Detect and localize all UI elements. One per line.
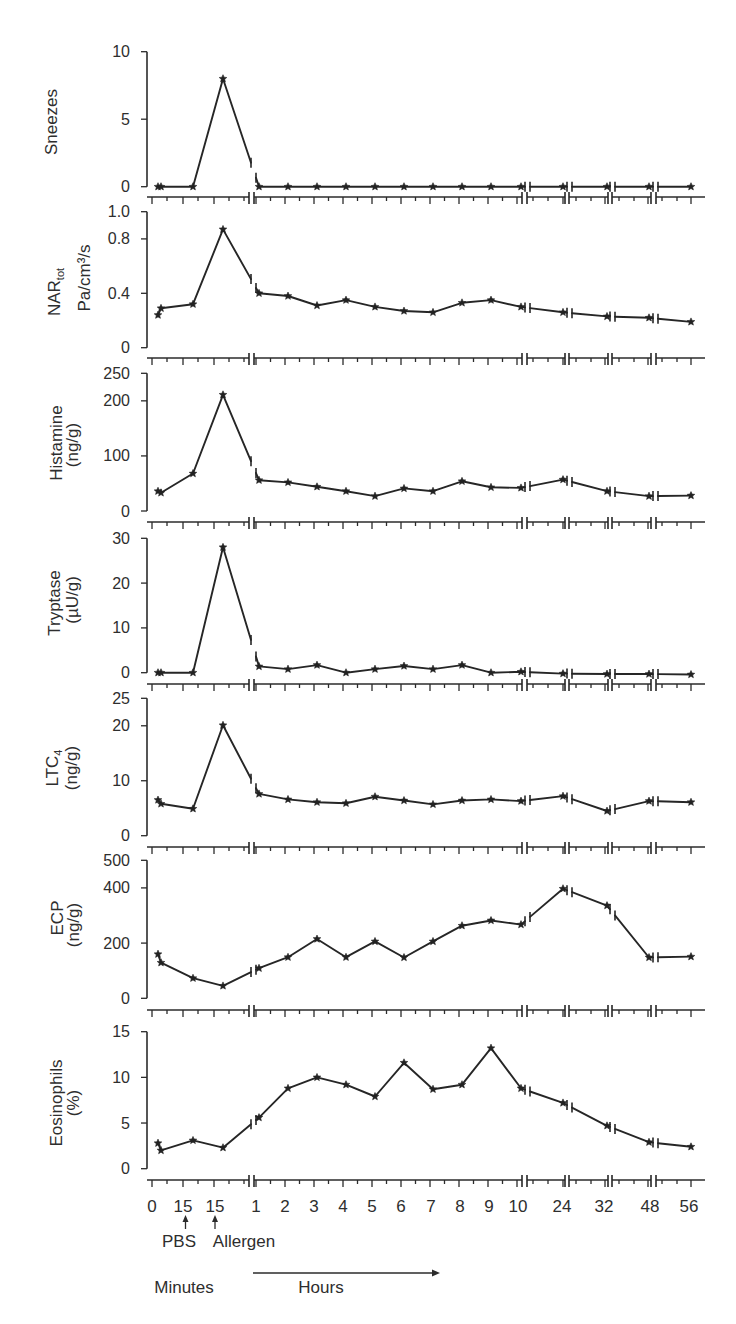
data-point-star-marker xyxy=(189,300,197,307)
data-point-star-marker xyxy=(517,183,525,190)
data-point-star-marker xyxy=(157,304,165,311)
y-axis-title-subscript: tot xyxy=(54,268,66,280)
data-point-star-marker xyxy=(342,183,350,190)
y-tick-label: 0 xyxy=(121,503,130,520)
y-axis-title-text: NAR xyxy=(45,280,64,316)
x-tick-label: 15 xyxy=(174,1197,193,1216)
data-point-star-marker xyxy=(154,311,162,318)
y-tick-label: 5 xyxy=(121,111,130,128)
data-point-star-marker xyxy=(517,668,525,675)
data-point-star-marker xyxy=(687,671,695,678)
data-point-star-marker xyxy=(255,183,263,190)
panel-nartot: NARtotPa/cm³/s1.00.80.40 xyxy=(45,203,705,365)
x-tick-label: 15 xyxy=(206,1197,225,1216)
x-tick-label: 9 xyxy=(484,1197,493,1216)
y-axis-title: LTC4 xyxy=(43,750,64,787)
data-point-star-marker xyxy=(487,296,495,303)
time-unit-legend: MinutesHours xyxy=(154,1270,440,1298)
data-point-star-marker xyxy=(645,670,653,677)
y-axis-title: Sneezes xyxy=(42,89,61,155)
x-tick-label: 48 xyxy=(641,1197,660,1216)
x-tick-label: 5 xyxy=(367,1197,376,1216)
data-point-star-marker xyxy=(342,669,350,676)
y-tick-label: 5 xyxy=(121,1115,130,1132)
x-tick-label: 8 xyxy=(455,1197,464,1216)
data-point-star-marker xyxy=(284,478,292,485)
data-point-star-marker xyxy=(487,917,495,924)
data-point-star-marker xyxy=(189,183,197,190)
data-line xyxy=(158,229,691,322)
data-point-star-marker xyxy=(458,299,466,306)
data-point-star-marker xyxy=(313,798,321,805)
y-axis-unit: (ng/g) xyxy=(64,903,83,947)
data-point-star-marker xyxy=(219,982,227,989)
data-point-star-marker xyxy=(645,492,653,499)
event-markers: PBSAllergen xyxy=(162,1215,275,1251)
data-point-star-marker xyxy=(189,1136,197,1143)
data-point-star-marker xyxy=(313,302,321,309)
data-point-star-marker xyxy=(487,669,495,676)
data-point-star-marker xyxy=(487,483,495,490)
panel-histamine: Histamine(ng/g)2502001000 xyxy=(47,365,705,529)
data-point-star-marker xyxy=(189,805,197,812)
x-tick-label: 2 xyxy=(280,1197,289,1216)
y-tick-label: 0 xyxy=(121,664,130,681)
data-point-star-marker xyxy=(429,308,437,315)
data-point-star-marker xyxy=(559,308,567,315)
data-point-star-marker xyxy=(371,665,379,672)
data-line xyxy=(158,1048,691,1150)
data-point-star-marker xyxy=(400,954,408,961)
y-tick-label: 20 xyxy=(112,575,130,592)
y-tick-label: 1.0 xyxy=(108,203,130,220)
data-point-star-marker xyxy=(429,665,437,672)
y-axis-unit: (ng/g) xyxy=(62,746,81,790)
data-point-star-marker xyxy=(400,484,408,491)
panel-ecp: ECP(ng/g)5004002000 xyxy=(48,852,705,1017)
arrowhead-icon xyxy=(212,1215,218,1222)
data-point-star-marker xyxy=(284,292,292,299)
data-point-star-marker xyxy=(458,477,466,484)
y-tick-label: 20 xyxy=(112,717,130,734)
data-point-star-marker xyxy=(371,303,379,310)
data-point-star-marker xyxy=(687,953,695,960)
x-axis-labels: 015151234567891024324856 xyxy=(147,1197,698,1216)
x-tick-label: 10 xyxy=(509,1197,528,1216)
data-point-star-marker xyxy=(645,797,653,804)
x-tick-label: 32 xyxy=(595,1197,614,1216)
y-tick-label: 0.4 xyxy=(108,285,130,302)
x-tick-label: 0 xyxy=(147,1197,156,1216)
y-tick-label: 25 xyxy=(112,690,130,707)
y-tick-label: 15 xyxy=(112,1023,130,1040)
pbs-label: PBS xyxy=(162,1232,196,1251)
y-tick-label: 250 xyxy=(103,365,130,382)
data-point-star-marker xyxy=(400,183,408,190)
data-point-star-marker xyxy=(342,296,350,303)
y-tick-label: 100 xyxy=(103,447,130,464)
x-tick-label: 7 xyxy=(426,1197,435,1216)
data-point-star-marker xyxy=(517,797,525,804)
data-point-star-marker xyxy=(559,792,567,799)
data-point-star-marker xyxy=(342,799,350,806)
y-tick-label: 0.8 xyxy=(108,230,130,247)
data-point-star-marker xyxy=(559,670,567,677)
data-point-star-marker xyxy=(559,183,567,190)
y-tick-label: 10 xyxy=(112,1069,130,1086)
data-point-star-marker xyxy=(400,662,408,669)
data-line xyxy=(158,79,691,187)
data-point-star-marker xyxy=(313,483,321,490)
data-point-star-marker xyxy=(458,183,466,190)
x-tick-label: 4 xyxy=(338,1197,347,1216)
data-point-star-marker xyxy=(517,303,525,310)
x-tick-label: 3 xyxy=(309,1197,318,1216)
data-point-star-marker xyxy=(219,225,227,232)
y-axis-title: NARtot xyxy=(45,268,66,316)
data-point-star-marker xyxy=(559,476,567,483)
data-point-star-marker xyxy=(645,183,653,190)
allergen-label: Allergen xyxy=(213,1232,275,1251)
y-tick-label: 30 xyxy=(112,530,130,547)
data-point-star-marker xyxy=(313,661,321,668)
data-point-star-marker xyxy=(687,318,695,325)
y-tick-label: 0 xyxy=(121,339,130,356)
stacked-time-course-figure: Sneezes1050NARtotPa/cm³/s1.00.80.40Hista… xyxy=(0,0,736,1324)
data-point-star-marker xyxy=(687,798,695,805)
